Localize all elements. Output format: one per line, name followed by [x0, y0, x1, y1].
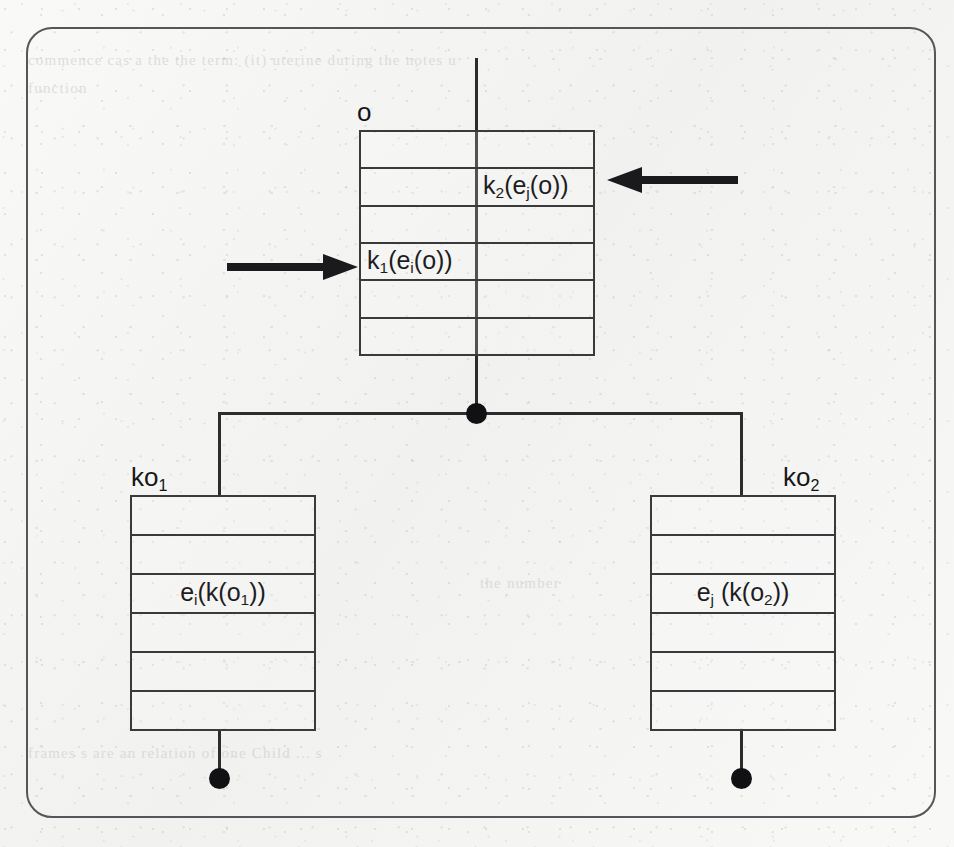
child-right-object-box: ej (k(o2)): [650, 495, 836, 731]
figure-canvas: commence cas a the the term: (it) uterin…: [0, 0, 954, 847]
child-right-slot-row-5: [652, 653, 834, 692]
child-right-box-label-sub: 2: [810, 476, 819, 494]
child-right-terminal-dot: [731, 768, 752, 789]
bus-to-child-left-line: [218, 412, 221, 496]
child-left-box-label-text: ko: [131, 462, 158, 492]
child-right-terminal-line: [740, 731, 743, 773]
child-right-slot-row-3: ej (k(o2)): [652, 575, 834, 614]
parent-slot-row-1: [361, 132, 593, 169]
child-left-slot-row-4: [132, 614, 314, 653]
slot-label-ei-ko1: ei(k(o1)): [180, 578, 266, 609]
parent-slot-row-5: [361, 281, 593, 318]
bus-to-child-right-line: [740, 412, 743, 496]
arrow-into-k2-icon: [606, 165, 738, 195]
child-left-slot-row-3: ei(k(o1)): [132, 575, 314, 614]
slot-label-ej-ko2: ej (k(o2)): [697, 578, 790, 609]
child-left-object-box: ei(k(o1)): [130, 495, 316, 731]
child-right-box-label-text: ko: [783, 462, 810, 492]
child-left-box-label-sub: 1: [158, 476, 167, 494]
child-left-slot-row-1: [132, 497, 314, 536]
child-right-slot-row-1: [652, 497, 834, 536]
child-left-box-label: ko1: [131, 462, 167, 495]
slot-label-k2: k2(ej(o)): [483, 171, 569, 202]
parent-object-box: k2(ej(o)) k1(ei(o)): [359, 130, 595, 356]
child-left-terminal-line: [218, 731, 221, 773]
parent-slot-row-2: k2(ej(o)): [361, 169, 593, 206]
child-right-slot-row-2: [652, 536, 834, 575]
child-right-box-label: ko2: [783, 462, 819, 495]
parent-incoming-reference-line: [475, 58, 478, 134]
parent-slot-row-3: [361, 207, 593, 244]
child-right-slot-row-6: [652, 692, 834, 729]
parent-box-label-text: o: [357, 97, 371, 127]
parent-slot-row-6: [361, 319, 593, 354]
child-left-slot-row-5: [132, 653, 314, 692]
child-right-slot-row-4: [652, 614, 834, 653]
child-left-slot-row-6: [132, 692, 314, 729]
bus-junction-dot: [466, 403, 487, 424]
parent-box-label: o: [357, 97, 371, 128]
parent-slot-row-4: k1(ei(o)): [361, 244, 593, 281]
slot-label-k1: k1(ei(o)): [367, 246, 453, 277]
child-left-slot-row-2: [132, 536, 314, 575]
arrow-into-k1-icon: [227, 252, 359, 282]
child-left-terminal-dot: [209, 768, 230, 789]
